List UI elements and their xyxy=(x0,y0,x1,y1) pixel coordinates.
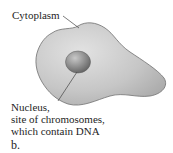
nucleus-label-line-2: site of chromosomes, xyxy=(11,113,105,125)
cytoplasm-leader-line xyxy=(63,16,79,28)
nucleus-shape xyxy=(66,51,91,73)
nucleus-label-line-3: which contain DNA xyxy=(11,125,105,137)
cytoplasm-shape xyxy=(36,23,166,105)
cytoplasm-label: Cytoplasm xyxy=(12,9,60,21)
panel-label: b. xyxy=(11,139,20,151)
nucleus-label: Nucleus, site of chromosomes, which cont… xyxy=(11,101,105,137)
nucleus-label-line-1: Nucleus, xyxy=(11,101,105,113)
cell-diagram: Cytoplasm Nucleus, site of chromosomes, … xyxy=(0,0,173,153)
